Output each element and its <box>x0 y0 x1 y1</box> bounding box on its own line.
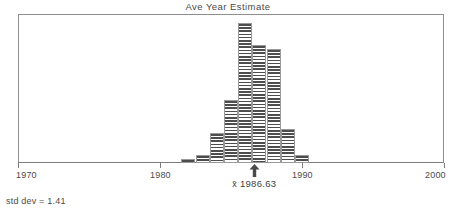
std-dev-label: std dev = 1.41 <box>6 196 66 206</box>
x-axis-line <box>18 162 444 163</box>
x-tick-label-1990: 1990 <box>292 170 313 180</box>
x-bar-symbol: x̄ <box>232 179 237 189</box>
x-tick-label-2000: 2000 <box>425 170 446 180</box>
x-tick-label-1980: 1980 <box>150 170 171 180</box>
x-tick-2000 <box>444 163 445 168</box>
plot-area <box>18 14 444 163</box>
mean-value-label: x̄1986.63 <box>232 178 276 189</box>
mean-number: 1986.63 <box>240 178 276 189</box>
x-tick-1970 <box>18 163 19 168</box>
mean-arrow-icon <box>249 164 260 177</box>
chart-canvas: Ave Year Estimate 1970198019902000 x̄198… <box>0 0 456 215</box>
x-tick-label-1970: 1970 <box>16 170 37 180</box>
page-title: Ave Year Estimate <box>0 1 456 12</box>
x-tick-1990 <box>302 163 303 168</box>
x-tick-1980 <box>160 163 161 168</box>
